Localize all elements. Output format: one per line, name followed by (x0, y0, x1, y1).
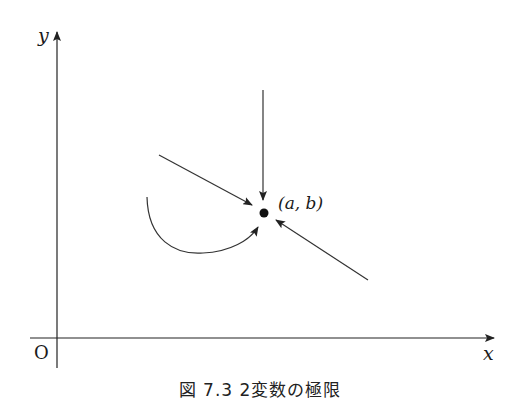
origin-label: O (34, 342, 49, 363)
point-label: (a, b) (278, 193, 323, 213)
arrow-curved-from-left (147, 197, 258, 253)
figure-caption: 図 7.3 2変数の極限 (0, 376, 520, 401)
arrow-from-upper-left (159, 155, 252, 205)
arrow-from-lower-right (276, 220, 368, 280)
point-dot (260, 209, 269, 218)
x-axis-label: x (483, 342, 494, 364)
y-axis-label: y (38, 24, 49, 46)
